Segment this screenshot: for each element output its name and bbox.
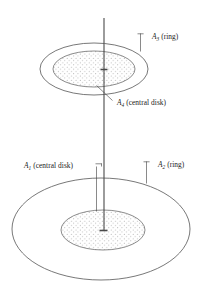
label-a2: A2 (ring) — [157, 160, 185, 170]
diagram-canvas: A3 (ring) A4 (central disk) A1 (central … — [0, 0, 206, 301]
axis-group — [100, 18, 108, 231]
figure-container: A3 (ring) A4 (central disk) A1 (central … — [0, 0, 206, 301]
label-a4-qualifier: (central disk) — [126, 98, 166, 107]
label-a2-qualifier: (ring) — [167, 160, 185, 169]
label-a1-qualifier: (central disk) — [33, 161, 73, 170]
label-a4: A4 (central disk) — [116, 98, 167, 108]
upper-figure-group — [40, 43, 148, 95]
label-a1: A1 (central disk) — [23, 161, 74, 171]
lower-figure-group — [12, 178, 190, 280]
label-a3-qualifier: (ring) — [161, 32, 179, 41]
label-a3: A3 (ring) — [151, 32, 179, 42]
